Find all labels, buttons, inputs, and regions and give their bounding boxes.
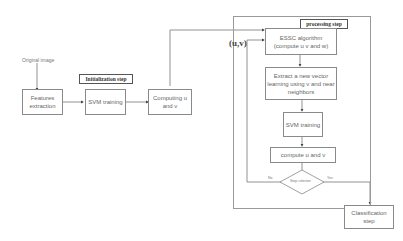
decision-yes-label: Yes	[327, 176, 333, 180]
initialization-title: Initialization step	[79, 74, 133, 84]
decision-label: Stop criterion	[290, 179, 311, 183]
features-extraction-box: Features extraction	[22, 89, 63, 115]
extract-vector-box: Extract a new vector learning using v an…	[265, 67, 337, 100]
computing-uv-box: Computing u and v	[148, 89, 192, 115]
svm-training-box: SVM training	[85, 89, 126, 115]
feedback-uv-label: (u,v)	[229, 38, 247, 48]
input-label: Original image	[22, 57, 54, 63]
classification-step-box: Classification step	[344, 205, 394, 229]
essc-algorithm-box: ESSC algorithm (compute u v and w)	[265, 28, 337, 55]
compute-uv-box: compute u and v	[270, 147, 336, 163]
svm-training-box-2: SVM training	[283, 112, 323, 137]
decision-no-label: No	[268, 176, 272, 180]
